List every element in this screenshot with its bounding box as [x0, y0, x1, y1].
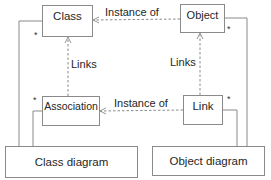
link-label: Link — [192, 100, 213, 113]
association-label: Association — [44, 100, 98, 113]
instance-of-label-top: Instance of — [105, 6, 159, 19]
class-diagram-label: Class diagram — [35, 156, 109, 169]
object-diagram-box[interactable]: Object diagram — [152, 146, 265, 176]
link-box[interactable]: Link — [183, 95, 223, 125]
multiplicity-object: * — [227, 25, 231, 34]
multiplicity-association: * — [33, 96, 37, 105]
object-instance-of-class-arrow — [93, 19, 180, 20]
class-label: Class — [53, 10, 82, 23]
object-diagram-to-object-line — [224, 18, 247, 146]
object-diagram-label: Object diagram — [170, 155, 248, 168]
association-box[interactable]: Association — [42, 96, 100, 126]
class-box[interactable]: Class — [42, 5, 93, 37]
links-label-left: Links — [71, 58, 97, 71]
multiplicity-class: * — [34, 31, 38, 40]
class-diagram-box[interactable]: Class diagram — [5, 146, 138, 178]
class-diagram-to-class-line — [19, 21, 42, 146]
instance-of-label-bottom: Instance of — [114, 97, 168, 110]
multiplicity-link: * — [227, 95, 231, 104]
solid-connectors — [19, 18, 247, 146]
object-label: Object — [187, 9, 219, 22]
class-diagram-to-association-line — [33, 111, 42, 146]
object-box[interactable]: Object — [180, 4, 225, 33]
link-instance-of-association-arrow — [100, 110, 183, 111]
links-label-right: Links — [170, 56, 196, 69]
uml-metamodel-diagram: Class Object Association Link Class diag… — [0, 0, 271, 180]
object-diagram-to-link-line — [222, 110, 237, 146]
